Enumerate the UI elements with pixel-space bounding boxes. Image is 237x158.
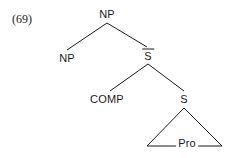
root-np-to-s-bar	[107, 23, 147, 47]
tree-node-s: S	[178, 93, 190, 105]
tree-node-root-np: NP	[97, 8, 117, 20]
tree-node-left-np: NP	[57, 52, 77, 64]
s-bar-to-comp	[110, 64, 148, 91]
tree-diagram-canvas: (69) NP NP S COMP S Pro	[0, 0, 237, 158]
tree-node-s-bar: S	[142, 49, 154, 62]
root-np-to-left-np	[67, 23, 107, 50]
tree-node-comp: COMP	[88, 93, 126, 105]
edge-group	[67, 23, 184, 91]
tree-node-pro: Pro	[176, 137, 198, 149]
tree-edges-svg	[0, 0, 237, 158]
s-bar-to-s-lower	[148, 64, 184, 91]
